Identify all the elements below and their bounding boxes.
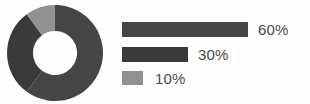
donut-chart-graphic [6,4,104,102]
legend-label-60: 60% [258,22,289,37]
legend-swatch-bar-10 [122,71,143,85]
legend-swatch-bar-60 [122,22,248,37]
legend-item-30[interactable]: 30% [122,45,229,63]
donut-chart-figure: 60% 30% 10% [0,0,310,104]
legend-item-60[interactable]: 60% [122,20,289,38]
legend: 60% 30% 10% [122,14,308,90]
legend-swatch-bar-30 [122,47,188,62]
donut-svg [6,4,104,102]
legend-label-10: 10% [155,71,186,86]
legend-item-10[interactable]: 10% [122,69,186,87]
legend-label-30: 30% [198,47,229,62]
